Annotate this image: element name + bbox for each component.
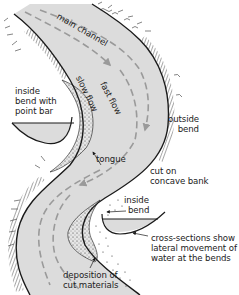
label-line: cross-sections show xyxy=(151,233,237,243)
label-line: outside xyxy=(168,114,199,124)
label-line: bend with xyxy=(15,96,57,106)
label-line: deposition of xyxy=(63,270,118,280)
cross-section-right xyxy=(102,212,165,234)
label-line: water at the bends xyxy=(151,253,237,263)
label-line: concave bank xyxy=(150,176,208,186)
label-line: bend xyxy=(124,205,149,215)
label-line: point bar xyxy=(15,106,57,116)
label-cross-sections: cross-sections show lateral movement of … xyxy=(151,233,237,263)
label-line: cut on xyxy=(150,166,208,176)
label-outside-bend: outside bend xyxy=(168,114,199,134)
label-inside-bend-point-bar: inside bend with point bar xyxy=(15,86,57,116)
label-deposition: deposition of cut materials xyxy=(63,270,118,290)
label-line: cut materials xyxy=(63,280,118,290)
cross-section-left xyxy=(12,117,74,144)
label-cut-on-concave-bank: cut on concave bank xyxy=(150,166,208,186)
label-inside-bend: inside bend xyxy=(124,195,149,215)
label-tongue: tongue xyxy=(96,154,126,164)
label-line: lateral movement of xyxy=(151,243,237,253)
label-line: inside xyxy=(124,195,149,205)
label-line: bend xyxy=(168,124,199,134)
label-line: inside xyxy=(15,86,57,96)
